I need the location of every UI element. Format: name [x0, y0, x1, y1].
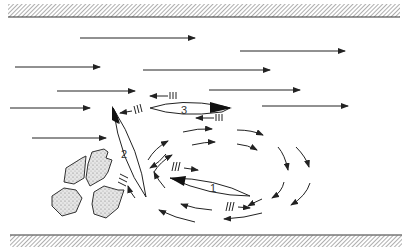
river-diagram: 3 2 1	[0, 0, 408, 252]
boat-1-label: 1	[210, 182, 216, 194]
boat-3: 3	[150, 92, 232, 121]
current-arrows	[10, 38, 348, 138]
eddy-arrows	[128, 129, 310, 222]
boat-2: 2	[112, 104, 146, 197]
boat-1: 1	[170, 162, 250, 211]
top-bank	[8, 4, 400, 17]
boat-2-label: 2	[121, 148, 127, 160]
bottom-bank	[10, 235, 402, 247]
boat-3-label: 3	[181, 104, 187, 116]
rocks	[52, 149, 124, 218]
diagram-canvas: 3 2 1	[0, 0, 408, 252]
